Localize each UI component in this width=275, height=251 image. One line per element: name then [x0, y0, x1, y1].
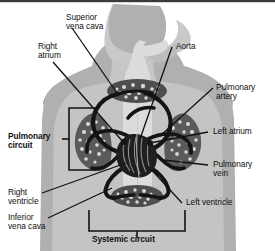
- label-superior-vena-cava: Superior vena cava: [66, 13, 103, 32]
- label-right-atrium: Right atrium: [38, 42, 61, 61]
- label-pulmonary-circuit: Pulmonary circuit: [8, 132, 50, 151]
- label-left-ventricle: Left ventricle: [186, 198, 232, 207]
- label-left-atrium: Left atrium: [213, 127, 252, 136]
- label-pulmonary-artery: Pulmonary artery: [216, 83, 255, 102]
- label-aorta: Aorta: [176, 42, 196, 51]
- label-pulmonary-vein: Pulmonary vein: [213, 160, 252, 179]
- label-systemic-circuit: Systemic circuit: [92, 235, 155, 244]
- circulatory-system-figure: Superior vena cava Right atrium Aorta Pu…: [0, 0, 275, 251]
- label-right-ventricle: Right ventricle: [8, 188, 38, 207]
- top-edge-line: [0, 0, 275, 2]
- label-inferior-vena-cava: Inferior vena cava: [8, 213, 45, 232]
